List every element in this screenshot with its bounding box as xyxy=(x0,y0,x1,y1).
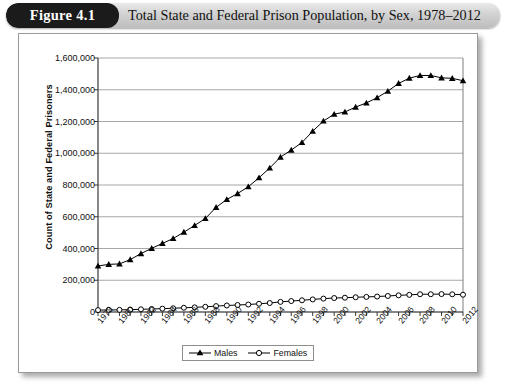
females-marker-icon xyxy=(248,348,270,358)
x-tick-label: 1988 xyxy=(202,304,222,325)
legend-label-males: Males xyxy=(214,348,237,358)
chart-frame: 1,600,0001,400,0001,200,0001,000,000800,… xyxy=(18,33,478,373)
x-tick-label: 1996 xyxy=(288,304,308,325)
x-tick-label: 1986 xyxy=(181,304,201,325)
figure-header-banner: Figure 4.1 Total State and Federal Priso… xyxy=(6,3,500,28)
figure-number-badge: Figure 4.1 xyxy=(6,3,119,28)
x-tick-label: 1994 xyxy=(267,304,287,325)
y-axis-title: Count of State and Federal Prisoners xyxy=(44,77,54,257)
x-tick-label: 2000 xyxy=(331,304,351,325)
legend-item-males: Males xyxy=(189,348,237,358)
legend-item-females: Females xyxy=(248,348,307,358)
x-axis-tick-labels: 1978198019821984198619881990199219941996… xyxy=(19,34,479,374)
x-tick-label: 2010 xyxy=(439,304,459,325)
x-tick-label: 1990 xyxy=(224,304,244,325)
x-tick-label: 1980 xyxy=(116,304,136,325)
x-tick-label: 2004 xyxy=(374,304,394,325)
x-tick-label: 1984 xyxy=(159,304,179,325)
legend-label-females: Females xyxy=(273,348,307,358)
x-tick-label: 2012 xyxy=(460,304,480,325)
chart-legend: Males Females xyxy=(182,345,314,361)
figure-title: Total State and Federal Prison Populatio… xyxy=(128,3,481,28)
x-tick-label: 1998 xyxy=(310,304,330,325)
x-tick-label: 1992 xyxy=(245,304,265,325)
x-tick-label: 1978 xyxy=(95,304,115,325)
x-tick-label: 2002 xyxy=(353,304,373,325)
x-tick-label: 1982 xyxy=(138,304,158,325)
x-tick-label: 2006 xyxy=(396,304,416,325)
males-marker-icon xyxy=(189,348,211,358)
figure-container: Figure 4.1 Total State and Federal Priso… xyxy=(0,0,506,387)
x-tick-label: 2008 xyxy=(417,304,437,325)
